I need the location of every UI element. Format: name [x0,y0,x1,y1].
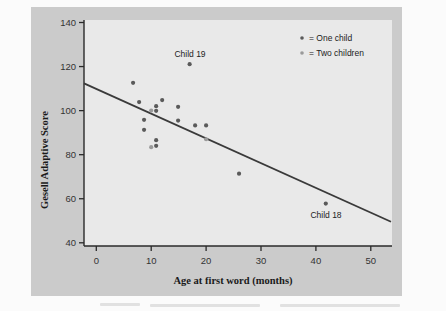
data-point-one-child [142,128,146,132]
scatter-chart: 40608010012014001020304050 Gesell Adapti… [0,0,446,311]
x-tick-label: 0 [94,255,99,266]
data-point-two-children [149,145,153,149]
y-tick-label: 60 [65,193,76,204]
y-tick-label: 80 [65,149,76,160]
x-tick-label: 10 [146,255,157,266]
data-point-one-child [137,100,141,104]
legend-label-one-child: = One child [309,33,353,43]
legend-dot-two-children-icon [300,51,304,55]
data-point-one-child [154,138,158,142]
x-tick-label: 50 [366,255,377,266]
data-point-one-child [237,172,241,176]
legend-dot-one-child-icon [300,36,304,40]
y-tick-label: 140 [60,17,76,28]
data-point-one-child [154,109,158,113]
y-tick-label: 40 [65,237,76,248]
regression-line-path [84,83,391,221]
y-axis-label: Gesell Adaptive Score [39,111,50,209]
data-point-one-child [176,118,180,122]
y-tick-label: 120 [60,61,76,72]
data-point-one-child [131,81,135,85]
x-tick-label: 40 [311,255,322,266]
x-axis-label: Age at first word (months) [174,275,293,287]
x-tick-label: 30 [256,255,267,266]
annotation-child-19: Child 19 [174,49,205,59]
data-points [131,62,328,206]
annotation-child-18: Child 18 [310,210,341,220]
data-point-one-child [176,105,180,109]
regression-line [84,83,391,221]
data-point-one-child [188,62,192,66]
data-point-one-child [154,144,158,148]
legend-label-two-children: = Two children [309,48,364,58]
data-point-two-children [149,109,153,113]
y-tick-label: 100 [60,105,76,116]
data-point-one-child [193,123,197,127]
data-point-one-child [142,118,146,122]
data-point-one-child [160,98,164,102]
data-point-one-child [324,201,328,205]
x-tick-label: 20 [201,255,212,266]
data-point-two-children [204,137,208,141]
data-point-one-child [154,104,158,108]
data-point-one-child [204,123,208,127]
legend [300,36,304,55]
